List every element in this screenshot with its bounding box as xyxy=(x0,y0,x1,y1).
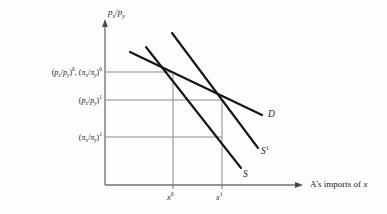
y-tick-label-level-1-pi: (πx/πy)1 xyxy=(8,132,102,144)
axes-group xyxy=(102,19,303,188)
demand-curve xyxy=(130,52,262,115)
x-tick-label-x0: x0 xyxy=(167,192,174,201)
supply-label-base: S xyxy=(243,169,248,179)
horizontal-gridlines-group xyxy=(105,72,222,137)
x-axis-title-plain: A's imports of xyxy=(310,179,361,189)
x-tick-x0-exp: 0 xyxy=(171,191,174,197)
x-tick-x1-exp: 1 xyxy=(220,191,223,197)
demand-label-base: D xyxy=(268,109,275,119)
x-tick-label-x1: x1 xyxy=(216,192,223,201)
y-tick-label-level-0: (px/py)0, (πx/πy)0 xyxy=(8,67,102,79)
curve-label-supply-shifted: S1 xyxy=(261,145,269,157)
y-axis-title-text: px/py xyxy=(108,7,125,17)
x-axis-title: A's imports of x xyxy=(310,180,367,189)
x-axis-arrowhead xyxy=(295,182,303,188)
y-axis-title: px/py xyxy=(108,8,125,19)
curve-label-supply-original: S xyxy=(243,168,248,180)
supply1-label-exp: 1 xyxy=(266,144,269,151)
diagram-canvas: px/py A's imports of x (px/py)0, (πx/πy)… xyxy=(0,0,387,214)
y-axis-arrowhead xyxy=(102,19,108,27)
curve-label-demand: D xyxy=(268,108,275,120)
y-tick-label-level-1-p: (px/py)1 xyxy=(8,95,102,107)
supply-shifted-curve xyxy=(172,33,258,148)
x-axis-title-italic: x xyxy=(363,179,367,189)
